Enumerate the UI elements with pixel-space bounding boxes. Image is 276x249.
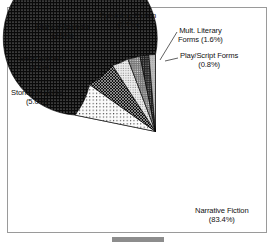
label-epistolary-fiction: Epistolary Fiction (2.1%) bbox=[100, 11, 156, 30]
label-play-script-forms-pct: (0.8%) bbox=[180, 60, 238, 69]
label-epistolary-fiction-pct: (2.1%) bbox=[100, 20, 156, 29]
label-diaries-journals-pct: (2.5%) bbox=[36, 31, 89, 40]
leader-line-play-script-forms bbox=[165, 58, 178, 61]
label-play-script-forms: Play/Script Forms (0.8%) bbox=[180, 51, 238, 70]
label-play-script-forms-name: Play/Script Forms bbox=[180, 51, 238, 60]
label-mult-literary-forms-pct: Forms (1.6%) bbox=[178, 35, 223, 44]
label-narrative-fiction-name: Narrative Fiction bbox=[195, 206, 249, 215]
label-mult-literary-forms-name: Mult. Literary bbox=[178, 26, 223, 35]
footer-bar bbox=[112, 237, 164, 242]
label-stories-in-verse: Stories in Verse (5.0%) bbox=[11, 88, 63, 107]
label-short-stories-pct: (4.6%) bbox=[19, 63, 62, 72]
leader-line-mult-literary-forms bbox=[160, 32, 177, 60]
label-short-stories-name: Short Stories bbox=[19, 54, 62, 63]
label-stories-in-verse-name: Stories in Verse bbox=[11, 88, 63, 97]
label-diaries-journals-name: Diaries/Journals bbox=[36, 22, 89, 31]
label-epistolary-fiction-name: Epistolary Fiction bbox=[100, 11, 156, 20]
pie-chart-figure: Epistolary Fiction (2.1%) Diaries/Journa… bbox=[0, 0, 276, 249]
label-narrative-fiction-pct: (83.4%) bbox=[195, 215, 249, 224]
label-mult-literary-forms: Mult. Literary Forms (1.6%) bbox=[178, 26, 223, 45]
label-diaries-journals: Diaries/Journals (2.5%) bbox=[36, 22, 89, 41]
label-narrative-fiction: Narrative Fiction (83.4%) bbox=[195, 206, 249, 225]
label-stories-in-verse-pct: (5.0%) bbox=[11, 97, 63, 106]
label-short-stories: Short Stories (4.6%) bbox=[19, 54, 62, 73]
